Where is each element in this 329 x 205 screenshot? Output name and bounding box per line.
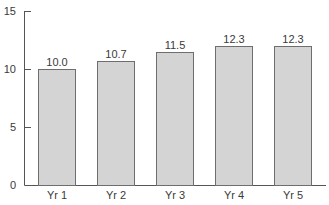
bar-yr-1 (39, 70, 76, 186)
x-tick-label: Yr 1 (47, 189, 67, 201)
value-label: 10.7 (105, 48, 126, 60)
x-tick-label: Yr 3 (165, 189, 185, 201)
y-ticks: 15 10 5 0 (4, 5, 31, 191)
bar-yr-2 (98, 62, 135, 186)
y-tick-label: 15 (4, 5, 16, 17)
value-label: 10.0 (46, 56, 67, 68)
value-label: 12.3 (282, 33, 303, 45)
value-label: 11.5 (165, 39, 186, 51)
x-tick-label: Yr 5 (283, 189, 303, 201)
y-tick-label: 5 (10, 121, 16, 133)
bar-yr-4 (216, 47, 253, 186)
x-tick-label: Yr 4 (224, 189, 244, 201)
bar-yr-3 (157, 53, 194, 186)
bars (39, 47, 312, 186)
x-tick-labels: Yr 1 Yr 2 Yr 3 Yr 4 Yr 5 (47, 189, 303, 201)
value-label: 12.3 (223, 33, 244, 45)
x-tick-label: Yr 2 (106, 189, 126, 201)
bar-yr-5 (275, 47, 312, 186)
bar-chart: 15 10 5 0 10.0 10.7 11.5 12.3 12.3 Yr 1 … (0, 0, 329, 205)
y-tick-label: 0 (10, 179, 16, 191)
y-tick-label: 10 (4, 63, 16, 75)
